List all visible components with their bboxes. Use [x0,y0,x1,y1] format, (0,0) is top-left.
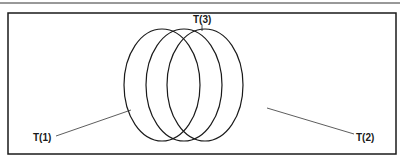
label-t2: T(2) [356,132,374,143]
ellipse-t2 [167,29,243,141]
leader-t1 [56,110,131,136]
ellipse-t1 [124,29,200,141]
label-t3: T(3) [193,14,211,25]
label-t1: T(1) [33,132,51,143]
diagram-canvas: T(3) T(1) T(2) [0,0,404,164]
ellipse-t3 [146,29,222,141]
leader-t2 [267,108,354,134]
